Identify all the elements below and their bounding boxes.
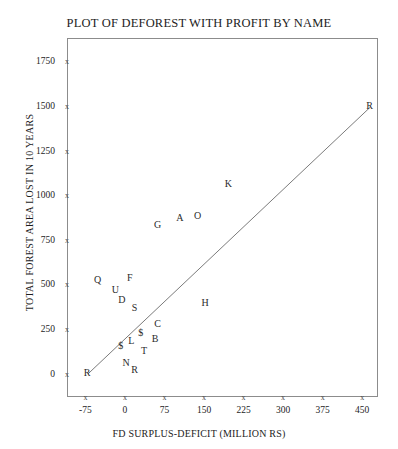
data-point-label: B	[152, 334, 159, 344]
data-point-label: C	[154, 319, 161, 329]
data-point-label: K	[225, 179, 232, 189]
data-point-label: R	[84, 368, 91, 378]
data-point-label: $	[118, 341, 123, 351]
y-tick-label: 250	[0, 324, 55, 334]
chart-title: PLOT OF DEFOREST WITH PROFIT BY NAME	[0, 16, 398, 31]
x-tick-mark: x	[163, 393, 167, 402]
data-point-label: R	[366, 101, 373, 111]
x-tick-label: 300	[276, 405, 290, 415]
x-tick-label: 375	[316, 405, 330, 415]
y-tick-label: 1250	[0, 146, 55, 156]
y-tick-label: 750	[0, 235, 55, 245]
x-tick-label: 75	[160, 405, 170, 415]
x-tick-label: 0	[123, 405, 128, 415]
chart-root: PLOT OF DEFOREST WITH PROFIT BY NAME TOT…	[0, 0, 398, 449]
y-tick-mark: x	[65, 280, 69, 289]
x-tick-label: 450	[355, 405, 369, 415]
y-tick-label: 1500	[0, 101, 55, 111]
x-tick-mark: x	[321, 393, 325, 402]
x-tick-label: 225	[236, 405, 250, 415]
x-tick-mark: x	[202, 393, 206, 402]
data-point-label: $	[138, 328, 143, 338]
x-axis-title: FD SURPLUS-DEFICIT (MILLION RS)	[0, 428, 398, 439]
x-tick-label: -75	[79, 405, 92, 415]
data-point-label: S	[132, 303, 138, 313]
y-tick-mark: x	[65, 369, 69, 378]
y-tick-label: 1000	[0, 190, 55, 200]
y-axis-title: TOTAL FOREST AREA LOST IN 10 YEARS	[24, 98, 35, 328]
x-tick-mark: x	[242, 393, 246, 402]
regression-line-layer	[0, 0, 398, 449]
x-tick-mark: x	[360, 393, 364, 402]
y-tick-label: 1750	[0, 56, 55, 66]
data-point-label: R	[131, 365, 138, 375]
data-point-label: A	[176, 213, 183, 223]
data-point-label: L	[128, 336, 134, 346]
data-point-label: T	[141, 346, 147, 356]
x-tick-label: 150	[197, 405, 211, 415]
x-tick-mark: x	[83, 393, 87, 402]
data-point-label: D	[118, 295, 125, 305]
data-point-label: O	[194, 211, 201, 221]
x-tick-mark: x	[281, 393, 285, 402]
data-point-label: G	[154, 220, 161, 230]
plot-frame	[67, 38, 378, 397]
y-tick-mark: x	[65, 235, 69, 244]
y-tick-mark: x	[65, 101, 69, 110]
y-tick-mark: x	[65, 146, 69, 155]
y-tick-mark: x	[65, 57, 69, 66]
y-tick-label: 500	[0, 279, 55, 289]
y-tick-mark: x	[65, 191, 69, 200]
x-tick-mark: x	[123, 393, 127, 402]
data-point-label: N	[122, 358, 129, 368]
data-point-label: H	[201, 298, 208, 308]
data-point-label: F	[127, 273, 133, 283]
y-tick-mark: x	[65, 325, 69, 334]
y-tick-label: 0	[0, 369, 55, 379]
data-point-label: Q	[94, 275, 101, 285]
